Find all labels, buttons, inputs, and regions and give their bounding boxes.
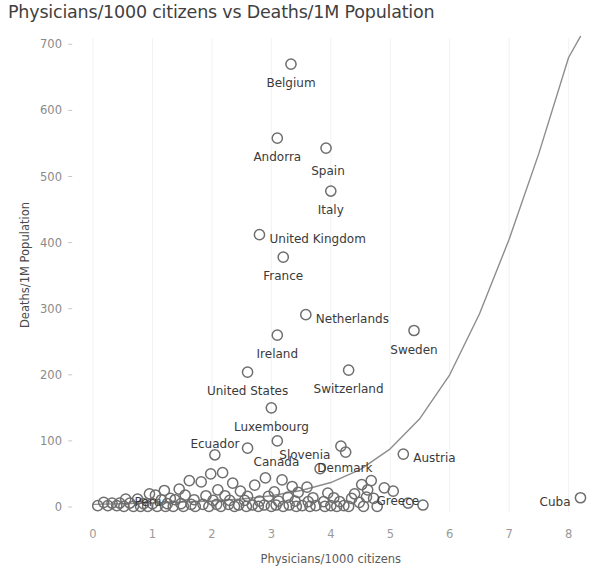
x-tick-label: 3 <box>256 527 286 541</box>
x-tick-label: 1 <box>137 527 167 541</box>
point-label-slovenia: Slovenia <box>279 449 330 461</box>
point-label-united-kingdom: United Kingdom <box>270 233 366 245</box>
data-point[interactable] <box>174 484 184 494</box>
x-tick-label: 6 <box>435 527 465 541</box>
data-point[interactable] <box>418 500 428 510</box>
y-tick-label: 600 <box>22 103 62 117</box>
data-point-austria[interactable] <box>398 449 408 459</box>
data-point-switzerland[interactable] <box>344 365 354 375</box>
y-axis-title: Deaths/1M Population <box>18 202 32 328</box>
point-label-united-states: United States <box>207 385 288 397</box>
x-tick-label: 0 <box>78 527 108 541</box>
point-label-italy: Italy <box>318 204 344 216</box>
data-point-canada[interactable] <box>242 443 252 453</box>
y-tick-label: 200 <box>22 368 62 382</box>
data-point[interactable] <box>228 478 238 488</box>
point-label-andorra: Andorra <box>253 151 301 163</box>
data-point-sweden[interactable] <box>409 325 419 335</box>
y-tick-label: 0 <box>22 500 62 514</box>
data-point[interactable] <box>218 468 228 478</box>
point-label-switzerland: Switzerland <box>314 383 384 395</box>
point-label-austria: Austria <box>413 452 455 464</box>
point-label-greece: Greece <box>377 495 420 507</box>
data-point-france[interactable] <box>278 252 288 262</box>
point-label-sweden: Sweden <box>390 344 437 356</box>
data-point[interactable] <box>277 475 287 485</box>
x-tick-label: 4 <box>316 527 346 541</box>
data-point[interactable] <box>196 477 206 487</box>
point-label-france: France <box>263 270 303 282</box>
y-tick-label: 100 <box>22 434 62 448</box>
point-label-peru: Peru <box>135 496 162 508</box>
x-axis-title: Physicians/1000 citizens <box>181 552 481 566</box>
x-tick-label: 7 <box>494 527 524 541</box>
data-point-united-states[interactable] <box>242 367 252 377</box>
data-point-spain[interactable] <box>321 143 331 153</box>
data-point[interactable] <box>184 475 194 485</box>
data-point[interactable] <box>250 480 260 490</box>
data-point[interactable] <box>213 485 223 495</box>
data-point[interactable] <box>260 473 270 483</box>
point-label-belgium: Belgium <box>266 77 315 89</box>
x-tick-label: 2 <box>197 527 227 541</box>
data-point-netherlands[interactable] <box>301 310 311 320</box>
point-label-spain: Spain <box>311 165 345 177</box>
data-point-belgium[interactable] <box>286 59 296 69</box>
y-tick-label: 700 <box>22 37 62 51</box>
data-point-ecuador[interactable] <box>210 450 220 460</box>
data-point[interactable] <box>206 469 216 479</box>
data-point[interactable] <box>366 475 376 485</box>
point-label-luxembourg: Luxembourg <box>234 421 309 433</box>
data-point-ireland[interactable] <box>272 330 282 340</box>
data-point[interactable] <box>93 501 103 511</box>
point-label-ecuador: Ecuador <box>190 438 239 450</box>
scatter-chart: Physicians/1000 citizens vs Deaths/1M Po… <box>0 0 611 583</box>
data-point-cuba[interactable] <box>575 493 585 503</box>
point-label-denmark: Denmark <box>317 462 372 474</box>
point-label-netherlands: Netherlands <box>316 313 389 325</box>
x-tick-label: 8 <box>554 527 584 541</box>
data-point-slovenia[interactable] <box>272 436 282 446</box>
data-point[interactable] <box>287 481 297 491</box>
x-tick-label: 5 <box>375 527 405 541</box>
point-label-cuba: Cuba <box>540 496 571 508</box>
data-point-united-kingdom[interactable] <box>254 230 264 240</box>
trend-curve <box>93 36 580 504</box>
data-point-andorra[interactable] <box>272 133 282 143</box>
point-label-ireland: Ireland <box>257 348 299 360</box>
y-tick-label: 500 <box>22 170 62 184</box>
data-point-greece[interactable] <box>361 492 371 502</box>
